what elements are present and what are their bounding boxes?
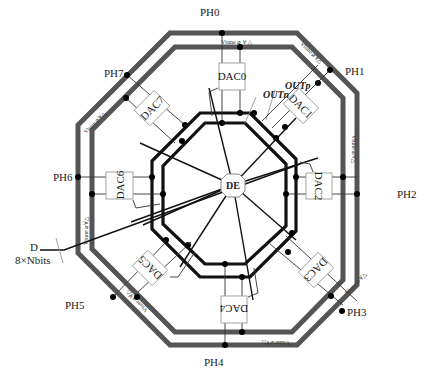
dac5: DAC5 <box>110 237 195 300</box>
svg-text:Vtune ⌀ ∀ △: Vtune ⌀ ∀ △ <box>221 39 253 45</box>
ph2-label: PH2 <box>397 188 417 200</box>
ph1-label: PH1 <box>345 65 365 77</box>
ph5-label: PH5 <box>65 299 85 311</box>
input-d-label: D <box>30 241 38 253</box>
svg-text:DAC6: DAC6 <box>114 170 126 199</box>
svg-text:Vtune ⌀∀△: Vtune ⌀∀△ <box>261 340 290 346</box>
svg-text:DAC4: DAC4 <box>219 303 248 315</box>
de-block: DE <box>221 174 245 197</box>
svg-text:Vtune ⌀∀△: Vtune ⌀∀△ <box>351 135 357 164</box>
ph0-label: PH0 <box>200 6 220 18</box>
ph3-label: PH3 <box>347 306 367 318</box>
ph7-label: PH7 <box>104 67 124 79</box>
input-width-label: 8×Nbits <box>15 254 51 266</box>
svg-text:DE: DE <box>226 180 240 191</box>
svg-text:DAC2: DAC2 <box>313 172 325 201</box>
ph4-label: PH4 <box>204 356 224 368</box>
svg-text:DAC0: DAC0 <box>218 70 247 82</box>
ring-dac-diagram: Vtune ⌀ ∀ △ Vtune ⌀∀△ Vtune ⌀∀△ Vtune ⌀∀… <box>0 0 427 380</box>
ph6-label: PH6 <box>53 171 73 183</box>
